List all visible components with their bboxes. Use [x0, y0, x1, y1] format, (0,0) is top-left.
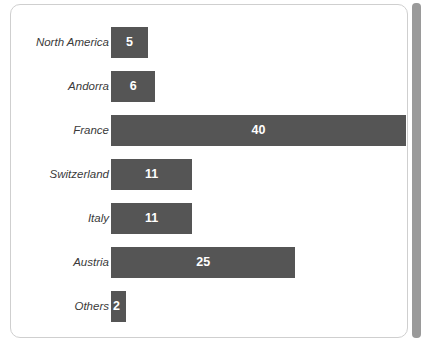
category-label: Others	[74, 291, 109, 322]
bar-row: France40	[11, 115, 407, 146]
bar[interactable]: 25	[111, 247, 295, 278]
category-label: France	[73, 115, 109, 146]
bar-chart: North America5Andorra6France40Switzerlan…	[11, 5, 407, 337]
bar-row: Austria25	[11, 247, 407, 278]
bar[interactable]: 5	[111, 27, 148, 58]
chart-card: North America5Andorra6France40Switzerlan…	[10, 4, 408, 338]
bar-value-label: 6	[111, 71, 155, 102]
category-label: Italy	[88, 203, 109, 234]
bar[interactable]: 2	[111, 291, 126, 322]
bar-value-label: 25	[111, 247, 295, 278]
bar-row: North America5	[11, 27, 407, 58]
bar-value-label: 5	[111, 27, 148, 58]
bar-value-label: 11	[111, 159, 192, 190]
bar-row: Italy11	[11, 203, 407, 234]
bar[interactable]: 11	[111, 159, 192, 190]
bar[interactable]: 40	[111, 115, 406, 146]
category-label: Austria	[73, 247, 109, 278]
vertical-scrollbar-thumb[interactable]	[412, 3, 421, 338]
category-label: Andorra	[68, 71, 109, 102]
category-label: Switzerland	[50, 159, 109, 190]
bar-value-label: 40	[111, 115, 406, 146]
category-label: North America	[36, 27, 109, 58]
bar-value-label: 2	[111, 291, 126, 322]
bar-row: Others2	[11, 291, 407, 322]
bar-value-label: 11	[111, 203, 192, 234]
chart-screenshot: North America5Andorra6France40Switzerlan…	[0, 0, 422, 349]
bar[interactable]: 6	[111, 71, 155, 102]
vertical-scrollbar-track[interactable]	[411, 0, 422, 341]
bar-row: Switzerland11	[11, 159, 407, 190]
bar-row: Andorra6	[11, 71, 407, 102]
bar[interactable]: 11	[111, 203, 192, 234]
